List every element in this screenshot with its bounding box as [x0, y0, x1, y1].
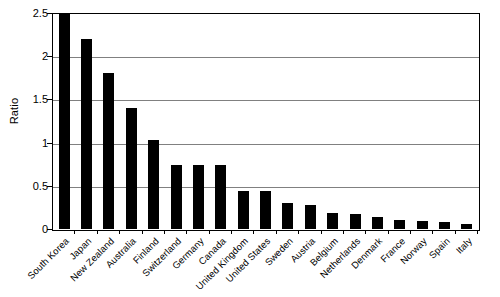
bar	[417, 221, 428, 229]
y-axis-tick-mark	[47, 186, 52, 187]
bar	[282, 203, 293, 229]
bar	[350, 214, 361, 229]
bar-slot	[53, 14, 75, 229]
y-axis-tick-label: 2	[8, 51, 48, 62]
bar	[461, 224, 472, 229]
y-axis-tick-mark	[47, 99, 52, 100]
bar	[81, 39, 92, 229]
y-axis-title: Ratio	[8, 81, 20, 141]
x-axis-label-slot: Australia	[120, 234, 142, 296]
bar-slot	[165, 14, 187, 229]
bar	[193, 165, 204, 230]
bar-slot	[120, 14, 142, 229]
x-axis-label-slot: Spain	[433, 234, 455, 296]
bar-slot	[75, 14, 97, 229]
bar	[215, 165, 226, 229]
bar	[439, 222, 450, 229]
y-axis-tick-label: 0	[8, 224, 48, 235]
y-axis-tick-mark	[47, 13, 52, 14]
bar-slot	[254, 14, 276, 229]
x-axis-tick-label: South Korea	[26, 236, 71, 281]
bar	[305, 205, 316, 229]
bar	[148, 140, 159, 229]
bar	[372, 217, 383, 229]
y-axis-tick-label: 2.5	[8, 8, 48, 19]
x-axis-label-slot: United States	[254, 234, 276, 296]
y-axis-tick-label: 1.5	[8, 94, 48, 105]
x-axis-label-slot: Norway	[411, 234, 433, 296]
x-axis-label-slot: Sweden	[277, 234, 299, 296]
bar-slot	[277, 14, 299, 229]
bar-slot	[232, 14, 254, 229]
bar-slot	[344, 14, 366, 229]
bar-slot	[389, 14, 411, 229]
bar-slot	[98, 14, 120, 229]
bar-slot	[366, 14, 388, 229]
y-axis-tick-label: 0.5	[8, 180, 48, 191]
bar	[171, 165, 182, 230]
bar	[59, 14, 70, 229]
bar-slot	[143, 14, 165, 229]
bar	[327, 213, 338, 229]
bars-layer	[53, 14, 478, 229]
bar-slot	[187, 14, 209, 229]
y-axis-tick-label: 1	[8, 137, 48, 148]
x-axis-label-slot: France	[389, 234, 411, 296]
bar-slot	[210, 14, 232, 229]
bar-chart: Ratio 00.511.522.5 South KoreaJapanNew Z…	[0, 0, 500, 297]
bar	[238, 191, 249, 229]
x-axis-labels: South KoreaJapanNew ZealandAustraliaFinl…	[53, 234, 478, 296]
bar-slot	[433, 14, 455, 229]
bar-slot	[411, 14, 433, 229]
x-axis-label-slot: Denmark	[366, 234, 388, 296]
bar	[260, 191, 271, 229]
bar	[394, 220, 405, 229]
y-axis-tick-mark	[47, 56, 52, 57]
bar-slot	[456, 14, 478, 229]
x-axis-label-slot: Italy	[456, 234, 478, 296]
y-axis-tick-mark	[47, 143, 52, 144]
bar-slot	[322, 14, 344, 229]
bar	[126, 108, 137, 229]
bar-slot	[299, 14, 321, 229]
y-axis-tick-mark	[47, 229, 52, 230]
x-axis-label-slot: South Korea	[53, 234, 75, 296]
bar	[103, 73, 114, 229]
x-axis-tick-label: Italy	[454, 236, 473, 255]
